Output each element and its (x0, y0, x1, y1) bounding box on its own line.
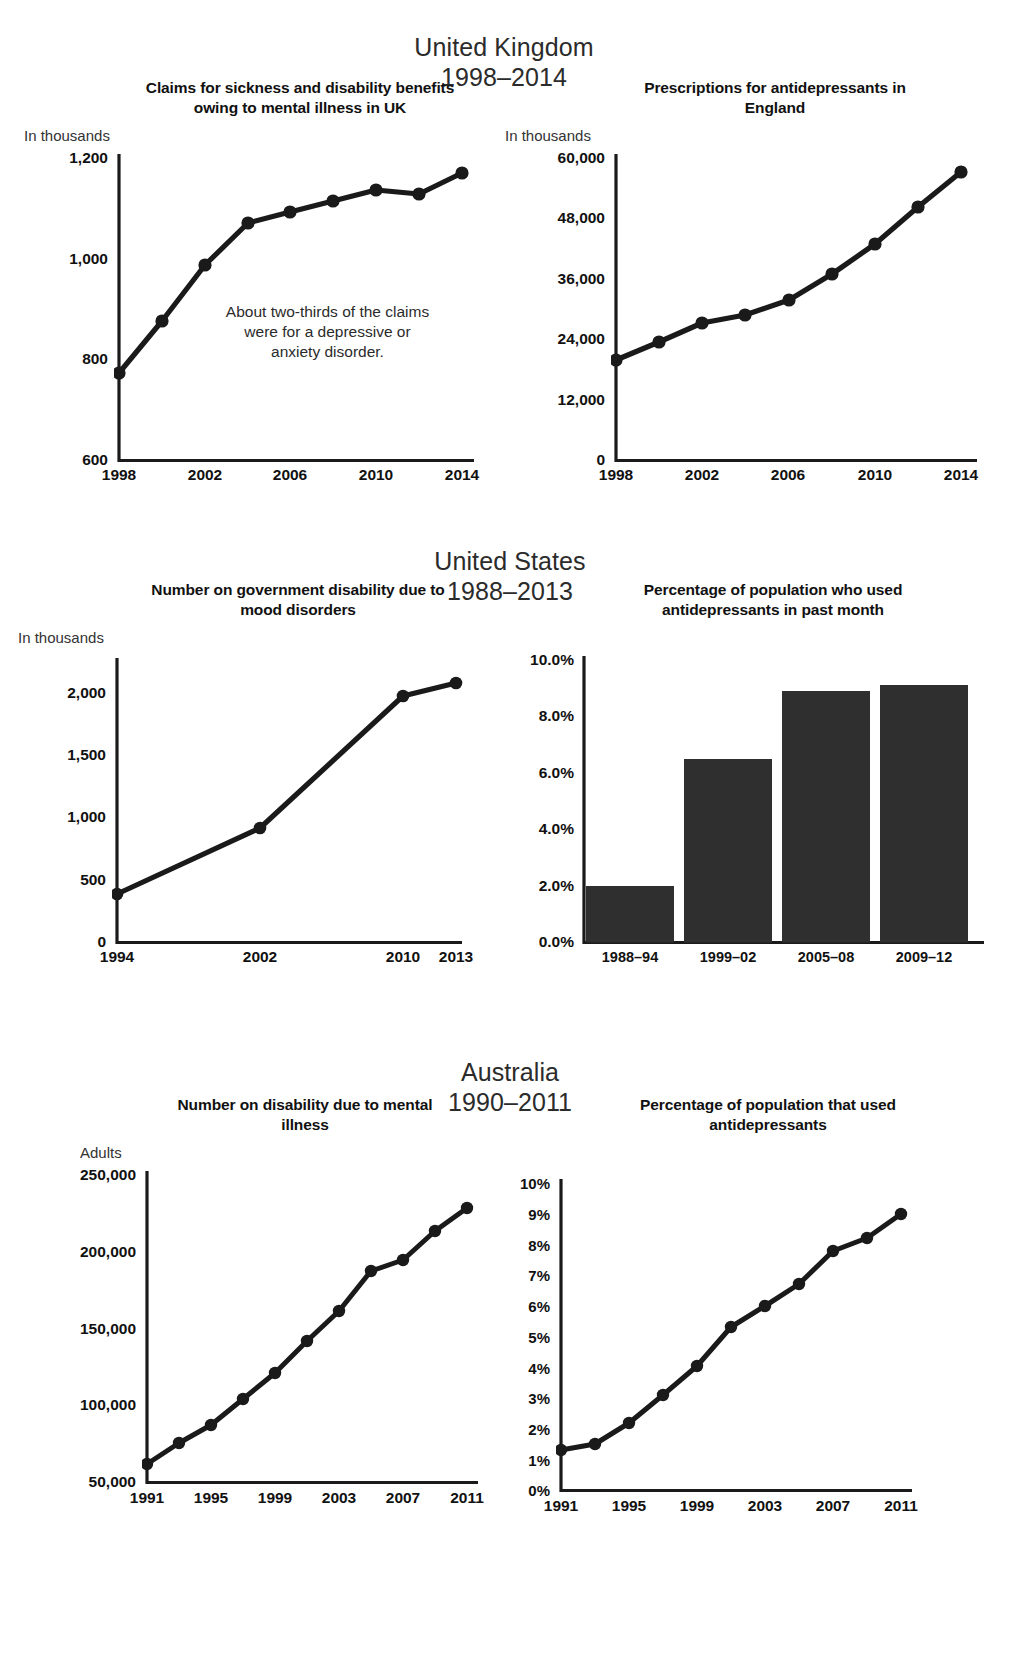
chart-title: Number on government disability due to m… (138, 580, 458, 620)
y-tick-label: 500 (18, 871, 106, 889)
bar-plot-svg (580, 652, 990, 962)
y-axis-unit-note: In thousands (24, 127, 479, 144)
y-axis-unit-note: In thousands (18, 629, 478, 646)
y-tick-label: 9% (488, 1205, 550, 1222)
x-tick-label: 1991 (544, 1497, 578, 1515)
y-tick-label: 10.0% (488, 651, 574, 669)
plot-area: 1,200 1,000 800 600 About (24, 150, 479, 520)
x-tick-label: 2010 (359, 466, 393, 484)
y-tick-label: 6% (488, 1297, 550, 1314)
x-tick-label: 2014 (445, 466, 479, 484)
x-tick-label: 2007 (386, 1489, 420, 1507)
plot-area: 10% 9% 8% 7% 6% 5% 4% 3% 2% 1% 0% (488, 1175, 988, 1515)
chart-title: Percentage of population who used antide… (583, 580, 963, 620)
x-tick-label: 2007 (816, 1497, 850, 1515)
x-tick-label: 2009–12 (896, 949, 952, 965)
x-tick-label: 2006 (273, 466, 307, 484)
x-tick-label: 2002 (188, 466, 222, 484)
y-tick-label: 50,000 (10, 1473, 136, 1491)
chart-us-antidepressant-use: Percentage of population who used antide… (488, 580, 988, 992)
y-tick-label: 200,000 (10, 1243, 136, 1261)
y-tick-label: 1,500 (18, 746, 106, 764)
x-tick-label: 2014 (944, 466, 978, 484)
y-tick-label: 7% (488, 1266, 550, 1283)
y-tick-label: 1,200 (24, 149, 108, 167)
x-tick-label: 1999 (258, 1489, 292, 1507)
y-tick-label: 2.0% (488, 877, 574, 895)
y-tick-label: 5% (488, 1328, 550, 1345)
y-tick-label: 24,000 (505, 330, 605, 348)
x-tick-label: 1991 (130, 1489, 164, 1507)
line-plot-svg (556, 1175, 916, 1510)
y-axis-unit-note: Adults (80, 1144, 480, 1161)
x-tick-label: 1999 (680, 1497, 714, 1515)
bar (880, 685, 968, 943)
infographic-page: United Kingdom 1998–2014 Claims for sick… (0, 0, 1015, 1671)
y-tick-label: 10% (488, 1174, 550, 1191)
x-tick-label: 2005–08 (798, 949, 854, 965)
y-tick-label: 600 (24, 451, 108, 469)
chart-title: Claims for sickness and disability benef… (132, 78, 468, 118)
bar (684, 759, 772, 943)
y-tick-label: 0 (18, 933, 106, 951)
y-tick-label: 0 (505, 451, 605, 469)
y-tick-label: 1,000 (18, 808, 106, 826)
chart-us-disability-mood: Number on government disability due to m… (18, 580, 478, 984)
chart-annotation: About two-thirds of the claims were for … (220, 302, 435, 362)
plot-area: 250,000 200,000 150,000 100,000 50,000 (10, 1167, 480, 1507)
y-tick-label: 48,000 (505, 209, 605, 227)
x-tick-label: 2003 (748, 1497, 782, 1515)
line-plot-svg (112, 654, 482, 964)
y-tick-label: 0% (488, 1481, 550, 1498)
chart-title: Number on disability due to mental illne… (160, 1095, 450, 1135)
x-tick-label: 1988–94 (602, 949, 658, 965)
line-plot-svg (142, 1167, 482, 1502)
y-tick-label: 1,000 (24, 250, 108, 268)
y-tick-label: 100,000 (10, 1396, 136, 1414)
plot-area: 2,000 1,500 1,000 500 0 1994 2002 2010 2… (18, 654, 478, 984)
y-tick-label: 8.0% (488, 707, 574, 725)
chart-england-prescriptions: Prescriptions for antidepressants in Eng… (505, 78, 975, 520)
chart-au-disability-mental: Number on disability due to mental illne… (10, 1095, 480, 1507)
chart-uk-claims: Claims for sickness and disability benef… (24, 78, 479, 520)
y-tick-label: 150,000 (10, 1320, 136, 1338)
x-tick-label: 1999–02 (700, 949, 756, 965)
y-tick-label: 2,000 (18, 684, 106, 702)
x-tick-label: 1998 (599, 466, 633, 484)
y-tick-label: 0.0% (488, 933, 574, 951)
x-tick-label: 2011 (884, 1497, 918, 1515)
y-tick-label: 4.0% (488, 820, 574, 838)
country-name: Australia (461, 1058, 559, 1086)
line-plot-svg (611, 150, 981, 480)
plot-area: 60,000 48,000 36,000 24,000 12,000 0 19 (505, 150, 975, 520)
x-tick-label: 1995 (612, 1497, 646, 1515)
y-tick-label: 1% (488, 1451, 550, 1468)
x-tick-label: 2002 (243, 948, 277, 966)
x-tick-label: 2011 (450, 1489, 484, 1507)
x-tick-label: 2002 (685, 466, 719, 484)
y-tick-label: 2% (488, 1420, 550, 1437)
y-tick-label: 4% (488, 1359, 550, 1376)
x-tick-label: 2003 (322, 1489, 356, 1507)
y-tick-label: 6.0% (488, 764, 574, 782)
y-tick-label: 250,000 (10, 1166, 136, 1184)
x-tick-label: 2013 (439, 948, 473, 966)
y-tick-label: 60,000 (505, 149, 605, 167)
y-axis-unit-note: In thousands (505, 127, 975, 144)
bar (586, 886, 674, 943)
chart-title: Percentage of population that used antid… (618, 1095, 918, 1135)
country-name: United States (434, 547, 585, 575)
plot-area: 10.0% 8.0% 6.0% 4.0% 2.0% 0.0% 1988–94 1… (488, 652, 988, 992)
chart-au-antidepressant-use: Percentage of population that used antid… (488, 1095, 988, 1515)
x-tick-label: 1994 (100, 948, 134, 966)
x-tick-label: 2010 (386, 948, 420, 966)
y-tick-label: 8% (488, 1236, 550, 1253)
y-tick-label: 36,000 (505, 270, 605, 288)
bar (782, 691, 870, 943)
x-tick-label: 1995 (194, 1489, 228, 1507)
y-tick-label: 3% (488, 1389, 550, 1406)
chart-title: Prescriptions for antidepressants in Eng… (625, 78, 925, 118)
x-tick-label: 2010 (858, 466, 892, 484)
x-tick-label: 1998 (102, 466, 136, 484)
y-tick-label: 800 (24, 350, 108, 368)
